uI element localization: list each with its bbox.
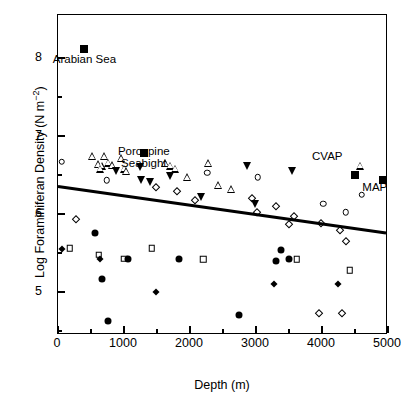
x-axis-tick-major [387,326,388,333]
data-point-filled-square [80,45,88,53]
y-axis-tick-label: 7 [35,128,42,142]
data-point-open-square [294,256,301,263]
data-point-open-circle [204,169,211,176]
data-point-open-triangle-up [356,162,364,170]
data-point-filled-triangle-down [137,176,145,184]
x-axis-tick-minor [288,329,289,333]
y-axis-tick-major [58,135,65,136]
x-axis-tick-labels: 010002000300040005000 [57,336,387,356]
x-axis-tick-major [57,326,58,333]
data-point-open-circle [59,158,66,165]
y-axis-tick-minor [58,252,62,253]
data-point-filled-triangle-down [166,172,174,180]
data-point-filled-circle [91,229,98,236]
x-axis-tick-label: 0 [54,336,61,350]
data-point-open-circle [104,177,111,184]
data-point-filled-circle [176,255,183,262]
x-axis-tick-minor [222,329,223,333]
y-axis-tick-major [58,291,65,292]
annotation-map: MAP [362,182,387,194]
x-axis-tick-minor [90,329,91,333]
foraminiferan-density-depth-scatter-chart: Log Foraminiferan Density (N m−2) 5678 A… [0,0,401,405]
x-axis-tick-major [255,326,256,333]
x-axis-tick-label: 3000 [241,336,269,350]
x-axis-tick-label: 2000 [175,336,203,350]
data-point-open-square [200,256,207,263]
x-axis-tick-major [321,326,322,333]
data-point-open-triangle-up [183,173,191,181]
data-point-filled-triangle-down [288,167,296,175]
data-point-filled-circle [235,312,242,319]
data-point-filled-circle [105,317,112,324]
data-point-open-triangle-up [204,159,212,167]
data-point-open-square [121,255,128,262]
data-point-filled-square [351,171,359,179]
data-point-open-circle [343,209,350,216]
x-axis-tick-major [189,326,190,333]
y-axis-tick-label: 6 [35,206,42,220]
data-point-open-triangle-up [96,165,104,173]
data-point-open-square [67,245,74,252]
data-point-open-square [346,267,353,274]
data-point-open-circle [255,174,262,181]
y-axis-tick-label: 5 [35,284,42,298]
x-axis-tick-minor [354,329,355,333]
data-point-open-triangle-up [227,185,235,193]
x-axis-tick-label: 5000 [373,336,401,350]
y-axis-tick-minor [58,330,62,331]
x-axis-tick-label: 4000 [307,336,335,350]
x-axis-tick-minor [156,329,157,333]
annotation-arabian-sea: Arabian Sea [53,54,116,66]
data-point-filled-circle [286,255,293,262]
data-point-filled-circle [278,246,285,253]
annotation-cvap: CVAP [312,151,342,163]
y-axis-tick-major [58,213,65,214]
data-point-open-triangle-up [214,181,222,189]
y-axis-tick-labels: 5678 [0,14,52,334]
annotation-porcupine-seabight: Porcupine Seabight [118,147,170,171]
data-point-filled-circle [98,275,105,282]
data-point-open-triangle-up [88,152,96,160]
data-point-filled-circle [272,257,279,264]
y-axis-tick-major [58,57,65,58]
y-axis-tick-label: 8 [35,50,42,64]
x-axis-tick-label: 1000 [109,336,137,350]
data-point-filled-triangle-down [243,162,251,170]
data-point-open-square [148,245,155,252]
y-axis-tick-minor [58,96,62,97]
plot-area: Arabian SeaPorcupine SeabightCVAPMAP [57,14,387,334]
x-axis-tick-major [123,326,124,333]
y-axis-tick-minor [58,174,62,175]
data-point-open-circle [320,201,327,208]
x-axis-title: Depth (m) [57,378,387,392]
